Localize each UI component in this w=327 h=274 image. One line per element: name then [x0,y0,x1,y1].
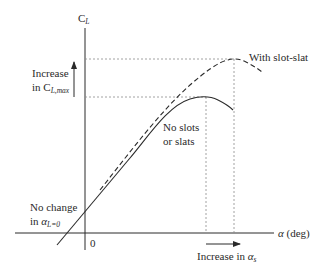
with-slot-slat-label: With slot-slat [249,50,308,64]
increase-alpha-label: Increase in αs [197,249,256,267]
no-change-line1: No change [30,200,77,214]
x-axis-unit: (deg) [284,227,310,239]
y-axis-label-sub: L [85,17,89,26]
no-change-line2: in αL=0 [30,214,77,232]
increase-clmax-line1: Increase [32,66,69,80]
y-axis-label: CL [78,11,90,29]
no-change-label: No change in αL=0 [30,200,77,232]
no-slots-line2: or slats [163,134,199,148]
increase-clmax-line2: in CL,max [32,80,69,98]
increase-clmax-label: Increase in CL,max [32,66,69,98]
no-change-sub: L=0 [47,220,60,229]
increase-alpha-sub: s [253,255,256,264]
increase-alpha-prefix: Increase in [197,250,248,262]
x-axis-label: α (deg) [278,226,310,240]
origin-label: 0 [90,236,96,250]
increase-clmax-prefix: in C [32,81,51,93]
lift-curve-diagram: CL α (deg) 0 Increase in CL,max With slo… [0,0,327,274]
increase-clmax-sub: L,max [51,86,70,95]
no-change-prefix: in [30,215,41,227]
no-slots-label: No slots or slats [163,120,199,148]
no-slots-line1: No slots [163,120,199,134]
